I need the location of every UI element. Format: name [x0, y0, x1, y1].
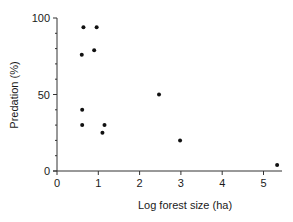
y-axis: 050100 — [32, 12, 57, 177]
data-points — [80, 25, 279, 167]
x-tick-label: 3 — [178, 177, 184, 189]
data-point — [157, 93, 161, 97]
data-point — [102, 123, 106, 127]
x-tick-label: 1 — [95, 177, 101, 189]
scatter-chart: 050100 012345 Log forest size (ha) Preda… — [0, 0, 293, 222]
data-point — [80, 108, 84, 112]
data-point — [81, 25, 85, 29]
x-tick-label: 0 — [54, 177, 60, 189]
data-point — [275, 163, 279, 167]
data-point — [80, 53, 84, 57]
x-axis: 012345 — [53, 171, 282, 189]
y-tick-label: 0 — [44, 165, 50, 177]
data-point — [178, 138, 182, 142]
data-point — [92, 48, 96, 52]
y-tick-label: 50 — [38, 89, 50, 101]
x-tick-label: 5 — [260, 177, 266, 189]
data-point — [95, 25, 99, 29]
x-axis-label: Log forest size (ha) — [138, 199, 232, 211]
y-axis-label: Predation (%) — [8, 61, 20, 128]
x-tick-label: 2 — [137, 177, 143, 189]
data-point — [80, 123, 84, 127]
x-tick-label: 4 — [219, 177, 225, 189]
y-tick-label: 100 — [32, 12, 50, 24]
data-point — [100, 131, 104, 135]
